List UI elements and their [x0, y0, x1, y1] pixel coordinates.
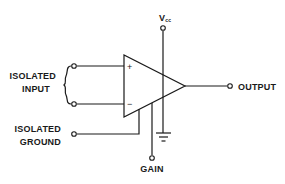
amplifier-triangle — [124, 55, 185, 117]
plus-sign: + — [127, 62, 132, 72]
non-inverting-input-terminal — [72, 64, 77, 69]
isolated-input-label-line1: ISOLATED — [10, 71, 57, 81]
isolated-ground-label-line2: GROUND — [20, 137, 61, 147]
isolated-ground-label-line1: ISOLATED — [15, 124, 62, 134]
ground-icon — [156, 133, 171, 141]
vcc-label: Vcc — [159, 13, 171, 23]
isolation-amplifier-diagram: + − ISOLATED INPUT ISOLATED GROUND GAIN … — [0, 0, 285, 184]
output-terminal — [228, 84, 233, 89]
gain-terminal — [150, 156, 155, 161]
gain-label: GAIN — [140, 164, 163, 174]
output-label: OUTPUT — [238, 82, 277, 92]
inverting-input-terminal — [72, 102, 77, 107]
isolated-ground-terminal — [72, 132, 77, 137]
input-brace-icon — [64, 66, 71, 104]
isolated-input-label-line2: INPUT — [22, 84, 50, 94]
vcc-terminal — [161, 26, 166, 31]
vcc-subscript: cc — [165, 17, 171, 23]
minus-sign: − — [127, 99, 132, 109]
